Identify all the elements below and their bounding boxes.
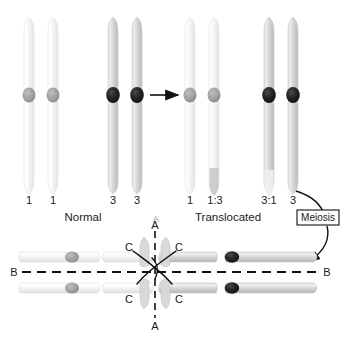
chr-1-left xyxy=(23,17,36,194)
axis-label-c-lower-left: C xyxy=(125,293,133,305)
group-label-normal: Normal xyxy=(64,211,101,223)
chromatid-body xyxy=(24,17,34,194)
chr-3-left xyxy=(106,17,120,194)
chr-label-3a: 3 xyxy=(110,194,116,206)
chr-t-3 xyxy=(286,17,300,194)
axis-label-a-bottom: A xyxy=(151,320,159,332)
chromatid-body xyxy=(108,17,118,194)
quadrivalent-vertical-arm-lower-right xyxy=(161,279,170,309)
chromatid-body xyxy=(209,17,219,194)
chr-label-t1: 1 xyxy=(187,194,193,206)
quadrivalent-vertical-arm-lower-left xyxy=(140,279,149,309)
chr-t-1-3 xyxy=(208,17,221,196)
centromere xyxy=(106,87,120,103)
chromatid-body xyxy=(185,17,195,194)
chr-label-t31: 3:1 xyxy=(261,194,276,206)
chr-t-1 xyxy=(184,17,197,194)
quadrivalent-centromere-upper-left xyxy=(65,252,79,263)
chromatid-body xyxy=(48,17,58,194)
translocated-segment-tip xyxy=(209,168,218,196)
axis-label-b-right: B xyxy=(323,266,330,278)
quadrivalent-centromere-lower-right xyxy=(225,282,239,294)
chr-label-1b: 1 xyxy=(50,194,56,206)
meiosis-box: Meiosis xyxy=(297,210,339,225)
chromatid-body xyxy=(132,17,142,194)
centromere xyxy=(286,87,300,103)
centromere xyxy=(208,88,221,103)
axis-label-a-top: A xyxy=(151,219,159,231)
axis-label-b-left: B xyxy=(10,266,17,278)
quadrivalent-arm-upper-left-outer xyxy=(19,252,101,262)
axis-label-c-lower-right: C xyxy=(175,293,183,305)
chr-3-right xyxy=(130,17,144,194)
axis-label-c-upper-right: C xyxy=(175,241,183,253)
quadrivalent-arm-lower-left-outer xyxy=(19,283,101,293)
chr-label-3b: 3 xyxy=(134,194,140,206)
chromatid-body xyxy=(264,17,274,194)
centromere xyxy=(23,88,36,103)
figure-canvas: 1 1 3 3 Normal A 1 1:3 xyxy=(0,0,341,340)
group-label-translocated: Translocated xyxy=(195,211,261,223)
chr-label-t13: 1:3 xyxy=(207,194,222,206)
chr-1-right xyxy=(47,17,60,194)
axis-label-c-upper-left: C xyxy=(125,241,133,253)
quadrivalent-centromere-lower-left xyxy=(65,283,79,294)
centromere xyxy=(262,87,276,103)
quadrivalent-vertical-arm-upper-right xyxy=(161,237,170,267)
centromere xyxy=(47,88,60,103)
quadrivalent-centromere-upper-right xyxy=(225,251,239,263)
centromere xyxy=(184,88,197,103)
centromere xyxy=(130,87,144,103)
chromatid-body xyxy=(288,17,298,194)
chr-label-t3: 3 xyxy=(290,194,296,206)
translocation-figure: 1 1 3 3 Normal A 1 1:3 xyxy=(0,0,341,340)
chr-label-1a: 1 xyxy=(26,194,32,206)
chr-t-3-1 xyxy=(262,17,276,196)
meiosis-label: Meiosis xyxy=(301,212,335,223)
